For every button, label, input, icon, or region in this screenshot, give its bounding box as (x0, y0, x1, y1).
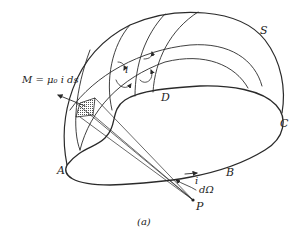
label-s: S (260, 24, 268, 37)
cone-line-4 (76, 103, 193, 200)
loop-current-arrow (185, 173, 197, 174)
current-loop-boundary (66, 86, 283, 185)
meridian-line-2 (135, 14, 165, 96)
label-a: A (56, 164, 65, 177)
surface-element-ds (76, 98, 95, 117)
label-cell-current: i (125, 64, 128, 75)
surface-s-outline (64, 12, 283, 165)
magnetic-shell-diagram: S A B C D P i i dΩ M = μ₀ i ds (a) (0, 0, 305, 239)
label-loop-current: i (195, 175, 198, 186)
figure-caption: (a) (137, 216, 151, 227)
label-solid-angle: dΩ (199, 184, 214, 195)
point-p-marker (191, 198, 194, 201)
label-d: D (160, 91, 170, 104)
label-b: B (225, 166, 234, 179)
label-c: C (280, 117, 289, 130)
meridian-line-3 (153, 12, 198, 92)
label-p: P (195, 200, 204, 213)
latitude-line-2 (80, 59, 248, 150)
label-moment: M = μ₀ i ds (21, 74, 79, 85)
cone-line-1 (80, 117, 193, 200)
